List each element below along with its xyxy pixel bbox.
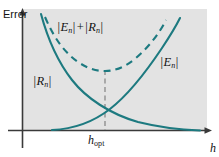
hopt-subscript: opt [94,139,105,148]
rn-bar-close: | [48,74,52,88]
plot-panel-background [22,9,207,130]
x-axis-label: h [210,142,216,154]
sum-bar-close-2: | [100,20,104,34]
en-bar-close: | [175,55,179,69]
sum-base-1: E [61,20,69,34]
en-base: E [164,55,172,69]
roundoff-error-curve-label: |Rn| [33,75,52,89]
total-error-curve-label: |En|+|Rn| [57,21,103,35]
x-axis-arrowhead [205,127,213,133]
x-tick-label-hopt: hopt [88,134,105,148]
sum-base-2: R [88,20,96,34]
rn-base: R [37,74,45,88]
y-axis-label: Error [3,9,27,20]
truncation-error-curve-label: |En| [160,56,179,70]
sum-operator: + [76,20,85,34]
error-vs-stepsize-figure: Error h hopt |En|+|Rn| |En| |Rn| [0,0,219,157]
